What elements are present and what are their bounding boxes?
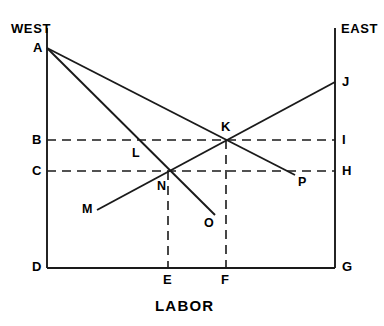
point-label-d: D [32,260,42,273]
labor-allocation-diagram: WEST EAST LABOR A B C D E F G H I J K L … [0,0,384,326]
diagram-canvas [0,0,384,326]
point-label-c: C [32,164,42,177]
point-label-b: B [32,133,42,146]
point-label-p: P [298,176,307,189]
schedule-line-a-p [47,48,295,175]
point-label-g: G [342,260,352,273]
schedule-line-a-o [47,48,215,215]
point-label-j: J [342,75,350,88]
point-label-l: L [132,147,140,160]
point-label-i: I [342,133,346,146]
point-label-n: N [157,180,166,193]
label-east: EAST [341,22,378,35]
label-labor-axis-title: LABOR [155,298,214,313]
label-west: WEST [11,22,51,35]
point-label-e: E [163,273,172,286]
point-label-f: F [221,273,229,286]
point-label-h: H [342,164,352,177]
point-label-k: K [221,120,231,133]
point-label-a: A [33,41,43,54]
point-label-o: O [204,217,214,230]
point-label-m: M [82,203,93,216]
